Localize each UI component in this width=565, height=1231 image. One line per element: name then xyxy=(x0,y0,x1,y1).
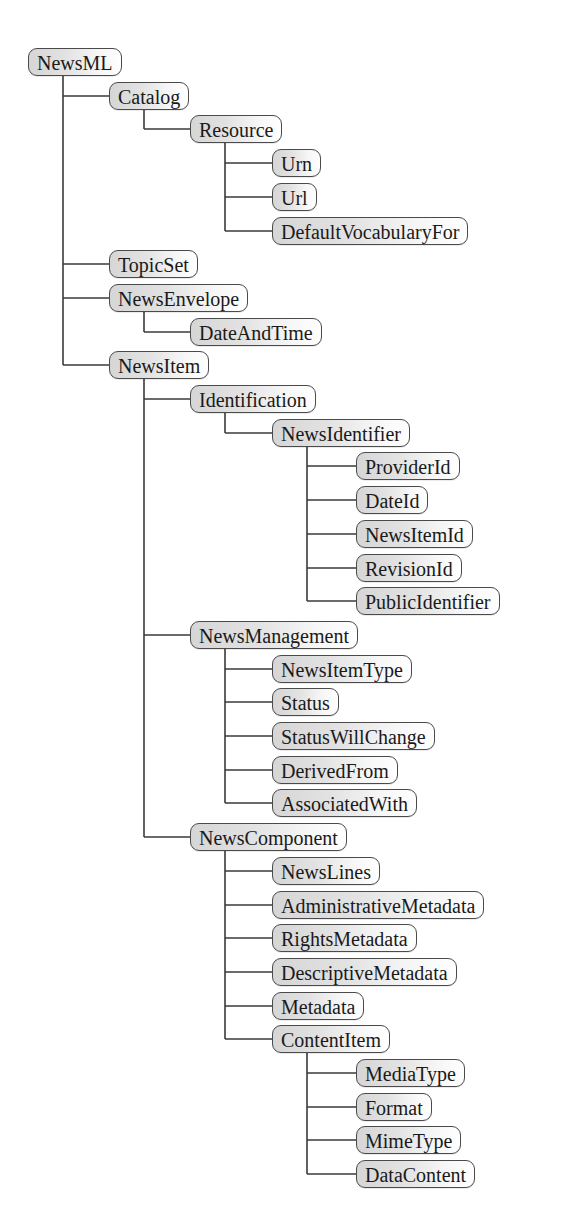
tree-node-data-content: DataContent xyxy=(356,1160,475,1188)
tree-node-news-item: NewsItem xyxy=(109,351,209,379)
tree-node-news-lines: NewsLines xyxy=(272,857,380,885)
tree-node-date-and-time: DateAndTime xyxy=(190,318,322,346)
tree-node-rights-metadata: RightsMetadata xyxy=(272,924,417,952)
tree-node-media-type: MediaType xyxy=(356,1059,465,1087)
tree-node-descriptive-metadata: DescriptiveMetadata xyxy=(272,958,457,986)
tree-node-public-identifier: PublicIdentifier xyxy=(356,587,500,615)
tree-node-resource: Resource xyxy=(190,115,282,143)
tree-node-revision-id: RevisionId xyxy=(356,554,462,582)
tree-node-associated-with: AssociatedWith xyxy=(272,789,417,817)
tree-node-news-management: NewsManagement xyxy=(190,621,358,649)
tree-node-news-component: NewsComponent xyxy=(190,823,347,851)
tree-node-date-id: DateId xyxy=(356,486,428,514)
tree-node-mime-type: MimeType xyxy=(356,1126,461,1154)
tree-node-default-vocabulary-for: DefaultVocabularyFor xyxy=(272,217,468,245)
tree-node-administrative-metadata: AdministrativeMetadata xyxy=(272,891,484,919)
tree-node-derived-from: DerivedFrom xyxy=(272,756,398,784)
tree-node-format: Format xyxy=(356,1093,432,1121)
newsml-tree-diagram: NewsMLCatalogResourceUrnUrlDefaultVocabu… xyxy=(0,0,565,1231)
tree-node-url: Url xyxy=(272,183,317,211)
tree-node-news-envelope: NewsEnvelope xyxy=(109,284,248,312)
tree-node-urn: Urn xyxy=(272,149,321,177)
tree-node-news-item-type: NewsItemType xyxy=(272,655,412,683)
tree-node-topic-set: TopicSet xyxy=(109,250,198,278)
tree-node-identification: Identification xyxy=(190,385,316,413)
tree-node-news-ml: NewsML xyxy=(28,48,122,76)
tree-node-catalog: Catalog xyxy=(109,82,189,110)
tree-node-news-item-id: NewsItemId xyxy=(356,520,473,548)
tree-node-provider-id: ProviderId xyxy=(356,452,460,480)
tree-node-status-will-change: StatusWillChange xyxy=(272,722,435,750)
tree-node-status: Status xyxy=(272,688,339,716)
tree-node-metadata: Metadata xyxy=(272,992,364,1020)
tree-node-content-item: ContentItem xyxy=(272,1025,390,1053)
tree-node-news-identifier: NewsIdentifier xyxy=(272,419,410,447)
